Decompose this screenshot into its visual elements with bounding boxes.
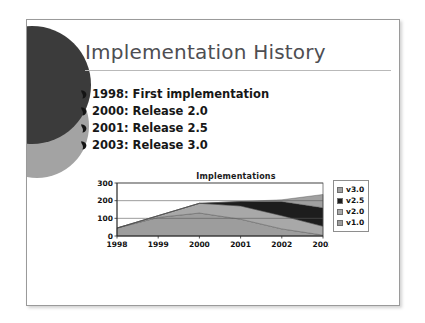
legend-item: v1.0	[337, 217, 364, 228]
svg-text:1999: 1999	[148, 240, 169, 249]
legend-item: v2.0	[337, 206, 364, 217]
legend-item: v3.0	[337, 184, 364, 195]
list-item-label: 2003: Release 3.0	[92, 137, 208, 153]
svg-text:1998: 1998	[107, 240, 128, 249]
bullet-list: 1998: First implementation 2000: Release…	[79, 86, 379, 154]
teardrop-bullet-icon	[79, 103, 92, 119]
list-item: 2003: Release 3.0	[79, 137, 379, 153]
chart-legend: v3.0 v2.5 v2.0 v1.0	[333, 180, 369, 232]
svg-text:2000: 2000	[189, 240, 210, 249]
svg-text:300: 300	[97, 179, 113, 188]
svg-text:2001: 2001	[230, 240, 251, 249]
legend-swatch-v20	[337, 209, 343, 215]
legend-swatch-v25	[337, 198, 343, 204]
legend-label: v3.0	[346, 184, 364, 195]
page-title: Implementation History	[85, 40, 326, 64]
legend-swatch-v10	[337, 220, 343, 226]
implementations-chart: Implementations 010020030019981999200020…	[89, 172, 385, 256]
list-item: 1998: First implementation	[79, 86, 379, 102]
chart-plot: 0100200300199819992000200120022003	[89, 172, 329, 256]
legend-label: v2.0	[346, 206, 364, 217]
list-item-label: 1998: First implementation	[92, 86, 269, 102]
list-item-label: 2001: Release 2.5	[92, 120, 208, 136]
title-divider	[85, 70, 391, 71]
legend-item: v2.5	[337, 195, 364, 206]
svg-text:100: 100	[97, 214, 113, 223]
svg-text:2003: 2003	[313, 240, 329, 249]
list-item-label: 2000: Release 2.0	[92, 103, 208, 119]
slide-frame: Implementation History 1998: First imple…	[26, 19, 400, 306]
svg-text:2002: 2002	[271, 240, 292, 249]
list-item: 2001: Release 2.5	[79, 120, 379, 136]
teardrop-bullet-icon	[79, 137, 92, 153]
list-item: 2000: Release 2.0	[79, 103, 379, 119]
legend-label: v1.0	[346, 217, 364, 228]
legend-label: v2.5	[346, 195, 364, 206]
teardrop-bullet-icon	[79, 86, 92, 102]
svg-text:200: 200	[97, 196, 113, 205]
teardrop-bullet-icon	[79, 120, 92, 136]
legend-swatch-v30	[337, 187, 343, 193]
